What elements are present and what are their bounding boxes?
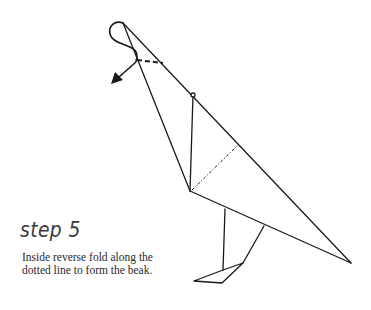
instruction-line-2: dotted line to form the beak. xyxy=(22,264,182,277)
fold-direction-arrow xyxy=(119,62,136,77)
neck-crease-dot xyxy=(191,93,195,97)
step-title: step 5 xyxy=(20,219,81,241)
instruction-line-1: Inside reverse fold along the xyxy=(22,251,182,264)
front-leg xyxy=(223,209,225,270)
body-outer-edge xyxy=(123,23,351,263)
back-leg xyxy=(243,226,264,263)
arrowhead-icon xyxy=(111,72,123,84)
body-bottom-edge xyxy=(190,191,351,263)
foot xyxy=(194,263,243,283)
neck-inner-crease xyxy=(190,95,193,191)
head-loop-curve xyxy=(110,22,137,61)
body-dotted-crease xyxy=(192,145,238,190)
step-instruction: Inside reverse fold along the dotted lin… xyxy=(22,251,182,277)
